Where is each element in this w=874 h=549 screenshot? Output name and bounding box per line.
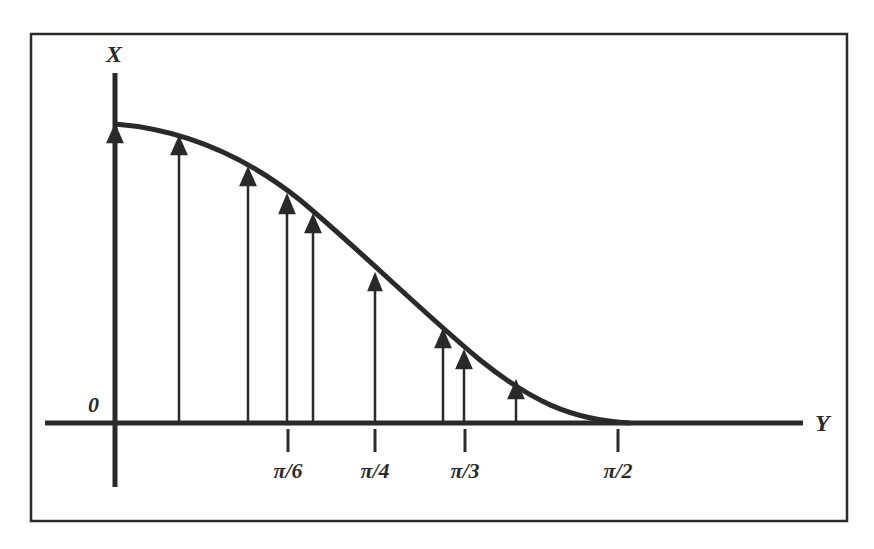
arrow-3 <box>241 169 255 423</box>
arrow-2 <box>172 138 186 423</box>
arrow-7 <box>436 331 450 423</box>
diagram-canvas: X Y 0 π/6 π/4 π/3 π/2 <box>0 0 874 549</box>
arrow-8 <box>457 352 471 423</box>
tick-label-pi-2: π/2 <box>603 458 632 483</box>
tick-marks <box>288 429 618 452</box>
frame-border <box>31 34 847 521</box>
tick-label-pi-6: π/6 <box>273 458 302 483</box>
arrow-4 <box>280 196 294 423</box>
tick-label-pi-3: π/3 <box>450 458 479 483</box>
decreasing-curve <box>115 124 630 423</box>
origin-label: 0 <box>88 392 99 417</box>
tick-label-pi-4: π/4 <box>360 458 389 483</box>
arrow-5 <box>306 216 320 423</box>
vector-arrows <box>108 126 523 423</box>
vertical-axis-label: X <box>105 41 123 67</box>
horizontal-axis-label: Y <box>815 410 832 436</box>
arrow-6 <box>369 275 381 423</box>
arrow-1 <box>108 126 122 423</box>
